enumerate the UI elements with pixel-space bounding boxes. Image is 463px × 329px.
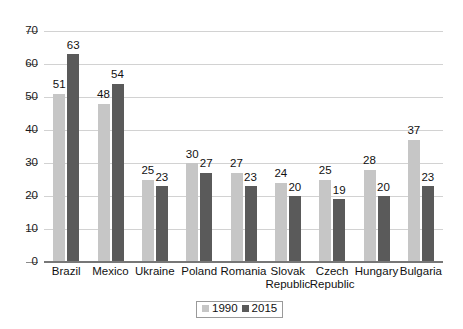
bar-2015 (156, 186, 168, 262)
legend-item-2015[interactable]: 2015 (242, 303, 278, 315)
plot-area: 516348542523302727232420251928203723 (44, 31, 443, 262)
bar-1990 (53, 94, 65, 262)
bar-value-label: 23 (238, 172, 264, 184)
bar-group: 3027 (186, 31, 212, 262)
bar-group: 4854 (98, 31, 124, 262)
y-axis-label: 60 (4, 58, 38, 70)
bar-value-label: 20 (282, 182, 308, 194)
bar-value-label: 25 (312, 165, 338, 177)
y-axis-label: 30 (4, 157, 38, 169)
bar-value-label: 28 (357, 155, 383, 167)
x-axis-category-labels: BrazilMexicoUkrainePolandRomaniaSlovakRe… (44, 265, 443, 305)
bar-value-label: 54 (105, 69, 131, 81)
bar-2015 (289, 196, 301, 262)
y-axis-label: 10 (4, 223, 38, 235)
bar-group: 2820 (364, 31, 390, 262)
bar-1990 (231, 173, 243, 262)
bar-value-label: 20 (371, 182, 397, 194)
bar-2015 (422, 186, 434, 262)
bar-2015 (245, 186, 257, 262)
legend-swatch-icon (202, 305, 209, 312)
y-axis-label: 0 (4, 256, 38, 268)
bar-value-label: 37 (401, 125, 427, 137)
bar-1990 (275, 183, 287, 262)
bar-value-label: 27 (193, 158, 219, 170)
y-axis: 010203040506070 (0, 31, 38, 262)
legend-item-1990[interactable]: 1990 (202, 303, 238, 315)
bar-group: 3723 (408, 31, 434, 262)
bar-1990 (408, 140, 420, 262)
bar-2015 (200, 173, 212, 262)
bar-group: 2519 (319, 31, 345, 262)
bar-value-label: 23 (149, 172, 175, 184)
bar-1990 (98, 104, 110, 262)
y-axis-label: 70 (4, 25, 38, 37)
bar-value-label: 27 (224, 158, 250, 170)
chart-legend: 19902015 (196, 301, 283, 318)
bar-2015 (112, 84, 124, 262)
bar-1990 (186, 163, 198, 262)
x-axis-line (44, 261, 443, 263)
bar-2015 (378, 196, 390, 262)
bar-value-label: 63 (60, 40, 86, 52)
bar-group: 2523 (142, 31, 168, 262)
bar-value-label: 19 (326, 185, 352, 197)
bar-group: 2723 (231, 31, 257, 262)
bar-value-label: 24 (268, 168, 294, 180)
bar-2015 (67, 54, 79, 262)
legend-label: 1990 (212, 303, 238, 315)
bar-group: 5163 (53, 31, 79, 262)
y-axis-label: 50 (4, 91, 38, 103)
bar-1990 (142, 180, 154, 263)
y-axis-label: 20 (4, 190, 38, 202)
legend-label: 2015 (252, 303, 278, 315)
bar-group: 2420 (275, 31, 301, 262)
bar-chart: 010203040506070 516348542523302727232420… (0, 0, 463, 329)
legend-swatch-icon (242, 305, 249, 312)
bar-value-label: 23 (415, 172, 441, 184)
bar-2015 (333, 199, 345, 262)
x-axis-category-label: Bulgaria (389, 265, 453, 278)
y-axis-label: 40 (4, 124, 38, 136)
